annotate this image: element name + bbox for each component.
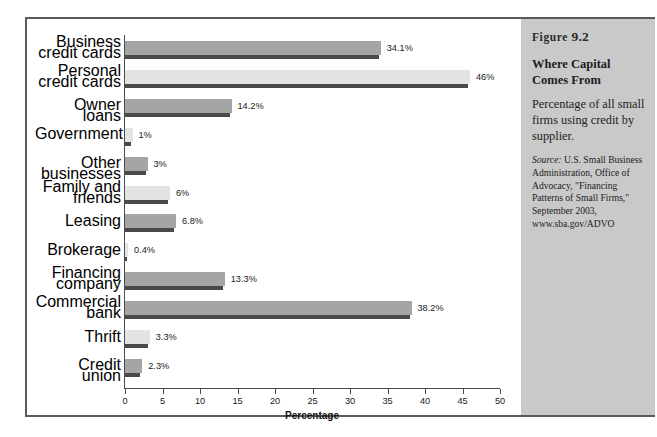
bar-value-label: 1%: [139, 130, 152, 140]
bar-personal-credit-cards: 46%: [125, 70, 501, 88]
bar-body: [125, 186, 170, 200]
bar-business-credit-cards: 34.1%: [125, 41, 501, 59]
bar-shadow: [125, 286, 223, 290]
bar-body: [125, 330, 150, 344]
category-label-line: credit cards: [35, 76, 121, 87]
bar-value-label: 14.2%: [238, 101, 264, 111]
bar-shadow: [125, 171, 146, 175]
figure-frame: 34.1%46%14.2%1%3%6%6.8%0.4%13.3%38.2%3.3…: [25, 17, 655, 417]
bar-value-label: 3.3%: [156, 332, 177, 342]
x-tick-mark: [275, 389, 276, 394]
category-label-leasing: Leasing: [35, 215, 121, 226]
bar-value-label: 6%: [176, 188, 189, 198]
bar-value-label: 46%: [476, 72, 494, 82]
figure-number-word: Figure: [532, 31, 568, 43]
bar-value-label: 13.3%: [231, 274, 257, 284]
bar-body: [125, 99, 232, 113]
category-label-line: Government: [35, 128, 121, 139]
x-tick-label: 20: [262, 396, 288, 406]
bar-value-label: 0.4%: [134, 245, 155, 255]
figure-page: 34.1%46%14.2%1%3%6%6.8%0.4%13.3%38.2%3.3…: [0, 0, 657, 437]
x-tick-label: 40: [412, 396, 438, 406]
bar-value-label: 38.2%: [418, 303, 444, 313]
bar-chart: 34.1%46%14.2%1%3%6%6.8%0.4%13.3%38.2%3.3…: [27, 19, 521, 415]
bar-brokerage: 0.4%: [125, 243, 501, 261]
x-tick-label: 35: [375, 396, 401, 406]
bar-body: [125, 272, 225, 286]
category-label-credit-union: Credit union: [35, 359, 121, 381]
bar-value-label: 6.8%: [182, 216, 203, 226]
category-label-personal-credit-cards: Personalcredit cards: [35, 65, 121, 87]
category-label-financing-company: Financingcompany: [35, 267, 121, 289]
source-text: U.S. Small Business Administration, Offi…: [532, 154, 642, 229]
caption-source: Source: U.S. Small Business Administrati…: [532, 154, 646, 231]
caption-description: Percentage of all small firms using cred…: [532, 97, 646, 145]
caption-panel: Figure 9.2 Where Capital Comes From Perc…: [521, 19, 655, 415]
category-label-line: Brokerage: [35, 244, 121, 255]
source-label: Source:: [532, 154, 561, 165]
bar-body: [125, 301, 412, 315]
bar-leasing: 6.8%: [125, 214, 501, 232]
category-label-thrift: Thrift: [35, 331, 121, 342]
category-label-brokerage: Brokerage: [35, 244, 121, 255]
bar-other-businesses: 3%: [125, 157, 501, 175]
bar-shadow: [125, 373, 140, 377]
category-label-other-businesses: Other businesses: [35, 157, 121, 179]
bar-value-label: 2.3%: [148, 361, 169, 371]
x-tick-label: 5: [150, 396, 176, 406]
bar-shadow: [125, 257, 127, 261]
caption-title: Where Capital Comes From: [532, 56, 646, 88]
x-tick-label: 50: [487, 396, 513, 406]
bar-family-and-friends: 6%: [125, 186, 501, 204]
bar-body: [125, 41, 381, 55]
x-tick-mark: [163, 389, 164, 394]
bar-credit-union: 2.3%: [125, 359, 501, 377]
x-tick-mark: [313, 389, 314, 394]
bar-body: [125, 359, 142, 373]
bar-owner-loans: 14.2%: [125, 99, 501, 117]
bar-body: [125, 70, 470, 84]
category-label-family-and-friends: Family andfriends: [35, 181, 121, 203]
x-tick-mark: [388, 389, 389, 394]
x-tick-mark: [463, 389, 464, 394]
bar-financing-company: 13.3%: [125, 272, 501, 290]
category-label-business-credit-cards: Businesscredit cards: [35, 36, 121, 58]
bar-shadow: [125, 228, 174, 232]
bar-shadow: [125, 315, 410, 319]
bar-value-label: 3%: [154, 159, 167, 169]
figure-number-value: 9.2: [572, 29, 589, 44]
category-label-line: credit cards: [35, 47, 121, 58]
category-label-commercial-bank: Commercialbank: [35, 296, 121, 318]
bar-shadow: [125, 142, 131, 146]
bar-body: [125, 214, 176, 228]
x-tick-label: 25: [300, 396, 326, 406]
category-label-line: Credit union: [35, 359, 121, 381]
figure-number-heading: Figure 9.2: [532, 29, 646, 45]
bar-value-label: 34.1%: [387, 43, 413, 53]
x-tick-mark: [500, 389, 501, 394]
x-tick-label: 30: [337, 396, 363, 406]
x-tick-mark: [425, 389, 426, 394]
bar-body: [125, 128, 133, 142]
x-tick-label: 10: [187, 396, 213, 406]
x-tick-label: 45: [450, 396, 476, 406]
category-label-line: Thrift: [35, 331, 121, 342]
bar-shadow: [125, 84, 468, 88]
category-label-line: Leasing: [35, 215, 121, 226]
x-tick-label: 15: [225, 396, 251, 406]
bar-body: [125, 157, 148, 171]
bar-commercial-bank: 38.2%: [125, 301, 501, 319]
x-axis-title: Percentage: [124, 410, 500, 421]
bar-government: 1%: [125, 128, 501, 146]
bar-shadow: [125, 200, 168, 204]
bar-shadow: [125, 113, 230, 117]
x-tick-mark: [350, 389, 351, 394]
x-tick-mark: [200, 389, 201, 394]
category-label-line: company: [35, 278, 121, 289]
bar-shadow: [125, 344, 148, 348]
bar-thrift: 3.3%: [125, 330, 501, 348]
x-tick-mark: [238, 389, 239, 394]
x-tick-label: 0: [112, 396, 138, 406]
category-label-line: Other businesses: [35, 157, 121, 179]
category-label-owner-loans: Owner loans: [35, 99, 121, 121]
